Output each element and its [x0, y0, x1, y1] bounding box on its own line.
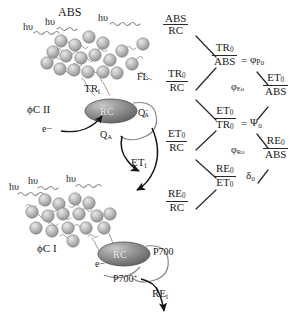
flux-et-per-rc-denominator: RC: [166, 141, 187, 153]
psii-qa-label: QA: [100, 130, 112, 141]
ratio-re-per-et: RE0 ET0: [214, 163, 236, 190]
ratio-et-per-abs: ET0 ABS: [263, 72, 288, 97]
quantum-yield-phi-ro: φRo: [231, 145, 244, 156]
psii-complex-label: ϕC II: [27, 104, 50, 115]
psi-photon-label-1: hυ: [9, 182, 19, 192]
psii-trapping-subscript: t: [98, 88, 100, 96]
electron-transport-subscript: t: [144, 162, 146, 170]
ratio-et-per-abs-numerator-sub: 0: [281, 76, 285, 84]
ratio-tr-per-abs-denominator-text: ABS: [214, 55, 235, 67]
flux-et-per-rc-numerator: ET0: [166, 128, 187, 141]
ratio-re-per-et-denominator-text: ET: [216, 176, 229, 188]
quantum-yield-psi-o-subscript: o: [258, 122, 262, 130]
ratio-et-per-abs-numerator-text: ET: [267, 71, 280, 83]
flux-tr-per-rc-denominator-text: RC: [170, 81, 185, 93]
psii-photon-label-3: hυ: [98, 13, 108, 23]
psii-qa-reduced-subscript: A: [144, 111, 149, 118]
flux-tr-per-rc: TR0 RC: [166, 68, 188, 93]
ratio-re-per-et-numerator: RE0: [214, 163, 236, 176]
ratio-re-per-abs-denominator-text: ABS: [265, 148, 286, 160]
flux-re-per-rc-numerator-sub: 0: [182, 192, 186, 200]
ratio-re-per-abs-numerator-text: RE: [267, 134, 281, 146]
final-reduction-text: RE: [152, 287, 166, 299]
flux-abs-per-rc-numerator-text: ABS: [165, 12, 186, 24]
quantum-yield-phi-eo-subscript: Eo: [237, 85, 244, 92]
p700-oxidized-superscript: +: [134, 273, 138, 280]
ratio-et-per-abs-denominator: ABS: [263, 85, 288, 97]
quantum-yield-phi-ro-subscript: Ro: [237, 148, 245, 155]
diagram-vector-layer: [0, 0, 295, 315]
flux-abs-per-rc-denominator-text: RC: [168, 24, 183, 36]
equals-sign-phi-po: =: [241, 55, 247, 66]
ratio-re-per-et-numerator-sub: 0: [230, 167, 234, 175]
ratio-et-per-tr-denominator-sub: 0: [230, 123, 234, 131]
p700-oxidized-text: P700: [113, 273, 134, 284]
ratio-tr-per-abs: TR0 ABS: [212, 42, 237, 67]
psi-electron-label: e−: [95, 259, 105, 269]
quantum-yield-psi-o-symbol: Ψ: [250, 116, 258, 128]
ratio-et-per-abs-numerator: ET0: [263, 72, 288, 85]
flux-et-per-rc-numerator-sub: 0: [181, 132, 185, 140]
quantum-yield-psi-o: Ψo: [250, 117, 262, 130]
flux-tr-per-rc-numerator: TR0: [166, 68, 188, 81]
psii-reaction-center: [85, 99, 137, 123]
fluorescence-label: FL: [137, 72, 149, 82]
psi-complex-label: ϕC I: [37, 243, 57, 254]
ratio-re-per-et-numerator-text: RE: [216, 162, 230, 174]
psi-photon-label-3: hυ: [66, 174, 76, 184]
ratio-re-per-abs-denominator: ABS: [263, 148, 288, 160]
psii-absorption-label: ABS: [58, 6, 81, 18]
ratio-et-per-tr: ET0 TR0: [214, 105, 236, 132]
flux-re-per-rc-denominator-text: RC: [170, 201, 185, 213]
psii-qa-subscript: A: [107, 133, 112, 140]
flux-re-per-rc-denominator: RC: [166, 201, 188, 213]
p700-label: P700: [153, 247, 174, 257]
quantum-yield-phi-eo: φEo: [231, 82, 244, 93]
psii-trapping-text: TR: [84, 82, 98, 94]
flux-et-per-rc: ET0 RC: [166, 128, 187, 153]
psii-photon-label-1: hυ: [23, 22, 33, 32]
electron-transport-label: ETt: [131, 157, 146, 170]
psi-photon-label-2: hυ: [28, 176, 38, 186]
ratio-re-per-et-denominator: ET0: [214, 176, 236, 190]
flux-tr-per-rc-numerator-sub: 0: [182, 72, 186, 80]
psii-electron-label: e−: [42, 124, 52, 134]
ratio-et-per-tr-numerator-sub: 0: [230, 109, 234, 117]
ratio-tr-per-abs-denominator: ABS: [212, 55, 237, 67]
electron-transport-text: ET: [131, 156, 144, 168]
ratio-et-per-abs-denominator-text: ABS: [265, 85, 286, 97]
psii-photon-label-2: hυ: [45, 17, 55, 27]
psii-trapping-label: TRt: [84, 83, 100, 96]
psi-photon-arrows: [18, 185, 101, 196]
ratio-tr-per-abs-numerator-sub: 0: [230, 46, 234, 54]
final-reduction-subscript: t: [166, 293, 168, 301]
flux-tr-per-rc-numerator-text: TR: [168, 67, 182, 79]
quantum-yield-delta-o: δo: [246, 170, 255, 183]
ratio-tr-per-abs-numerator-text: TR: [216, 41, 230, 53]
flux-tr-per-rc-denominator: RC: [166, 81, 188, 93]
ratio-et-per-tr-numerator-text: ET: [216, 104, 229, 116]
flux-abs-per-rc-numerator: ABS: [163, 13, 188, 24]
p700-oxidized-label: P700+: [113, 274, 137, 284]
energy-flux-diagram: ABS hυ hυ hυ FL TRt ϕC II RC e− QA Q−A E…: [0, 0, 295, 315]
flux-re-per-rc: RE0 RC: [166, 188, 188, 213]
ratio-re-per-abs-numerator: RE0: [263, 135, 288, 148]
ratio-et-per-tr-denominator: TR0: [214, 118, 236, 132]
quantum-yield-phi-po-subscript: Po: [256, 59, 264, 67]
flux-abs-per-rc: ABS RC: [163, 13, 188, 37]
ratio-re-per-et-denominator-sub: 0: [230, 181, 234, 189]
final-reduction-label: REt: [152, 288, 168, 301]
flux-re-per-rc-numerator-text: RE: [168, 187, 182, 199]
ratio-et-per-tr-denominator-text: TR: [216, 118, 230, 130]
equals-sign-psi-o: =: [241, 118, 247, 129]
ratio-re-per-abs-numerator-sub: 0: [281, 139, 285, 147]
flux-abs-per-rc-denominator: RC: [163, 24, 188, 36]
ratio-tr-per-abs-numerator: TR0: [212, 42, 237, 55]
quantum-yield-phi-po: φPo: [250, 54, 264, 67]
ratio-et-per-tr-numerator: ET0: [214, 105, 236, 118]
ratio-re-per-abs: RE0 ABS: [263, 135, 288, 160]
flux-et-per-rc-denominator-text: RC: [169, 141, 184, 153]
psi-reaction-center: [98, 242, 150, 266]
flux-et-per-rc-numerator-text: ET: [168, 127, 181, 139]
psii-qa-reduced-label: Q−A: [138, 108, 149, 119]
